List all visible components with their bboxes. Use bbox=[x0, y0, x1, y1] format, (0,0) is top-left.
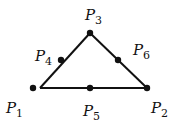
label-p3: P3 bbox=[85, 8, 102, 26]
node-p2 bbox=[144, 85, 150, 91]
node-p5 bbox=[87, 85, 93, 91]
label-p2: P2 bbox=[151, 101, 168, 119]
label-p5: P5 bbox=[83, 104, 100, 122]
label-p6: P6 bbox=[133, 43, 150, 61]
node-p4 bbox=[58, 57, 64, 63]
label-p1: P1 bbox=[6, 101, 23, 119]
node-p6 bbox=[115, 57, 121, 63]
node-p1 bbox=[30, 85, 36, 91]
node-p3 bbox=[87, 30, 93, 36]
label-p4: P4 bbox=[35, 49, 52, 67]
